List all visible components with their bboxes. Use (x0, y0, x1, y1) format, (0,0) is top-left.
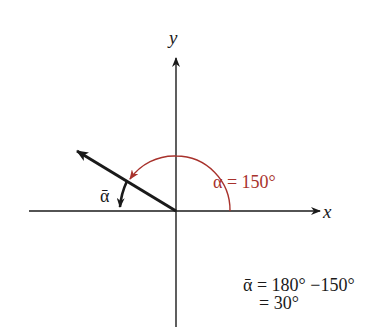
equation-line-1: ᾱ = 180° −150° (243, 276, 355, 294)
y-axis-label: y (169, 28, 177, 47)
equation-rhs: = 180° −150° (257, 275, 355, 295)
reference-angle-arc (120, 181, 127, 207)
x-axis-label: x (323, 202, 331, 221)
equation-lhs: ᾱ (243, 275, 252, 295)
equation-line-2: = 30° (259, 294, 299, 312)
reference-angle-label: ᾱ (100, 187, 109, 205)
angle-alpha-label: α = 150° (213, 173, 276, 191)
